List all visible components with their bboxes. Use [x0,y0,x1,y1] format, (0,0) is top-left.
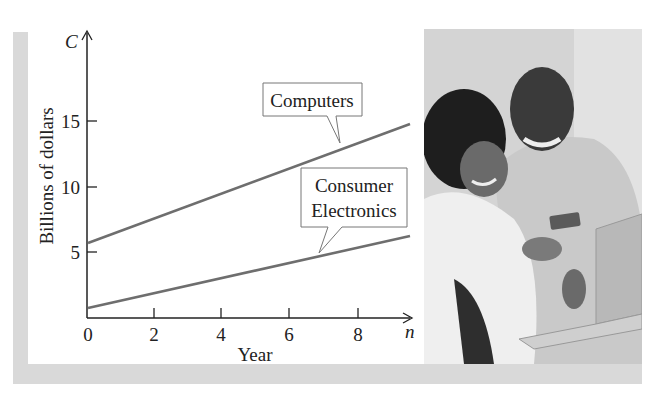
x-tick-label-0: 0 [83,324,93,345]
x-axis-title: Year [237,344,273,365]
x-tick-label-4: 4 [216,324,226,345]
photo-couple-laptop [424,29,642,364]
x-tick-label-6: 6 [284,324,294,345]
photo-illustration [424,29,642,364]
y-ticks [87,121,97,252]
y-tick-label-10: 10 [61,177,80,198]
y-variable-label: C [65,31,78,52]
consumer-electronics-line [88,236,410,308]
computers-callout-label: Computers [270,90,353,111]
line-chart: 5 10 15 0 2 4 6 8 n C Year Billions of d… [0,0,424,401]
consumer-callout-line1: Consumer [315,175,394,196]
y-axis-title: Billions of dollars [36,107,57,244]
computers-callout: Computers [263,83,362,143]
x-tick-label-2: 2 [149,324,159,345]
y-tick-label-5: 5 [71,242,81,263]
y-tick-label-15: 15 [61,111,80,132]
x-variable-label: n [405,321,415,342]
x-ticks [154,308,358,318]
consumer-callout-line2: Electronics [311,200,396,221]
x-tick-label-8: 8 [353,324,363,345]
